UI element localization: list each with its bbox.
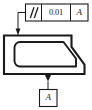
part-internal-slot: [15, 42, 77, 67]
drawing-canvas: // 0.01 A A: [0, 0, 92, 110]
datum-reference-label: A: [76, 7, 83, 17]
datum-feature-symbol[interactable]: A: [40, 74, 58, 107]
datum-triangle: [45, 74, 52, 82]
tolerance-value-label: 0.01: [49, 7, 63, 17]
datum-identifier-label: A: [45, 92, 52, 102]
drawing-svg: // 0.01 A A: [0, 0, 92, 110]
leader-line: [16, 13, 26, 36]
feature-control-frame[interactable]: // 0.01 A: [26, 4, 89, 21]
